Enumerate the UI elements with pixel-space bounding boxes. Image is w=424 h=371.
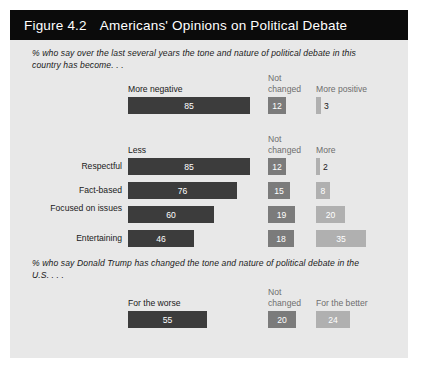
trump-value-for-the-better: 24	[328, 315, 338, 325]
trump-col-for-the-worse: For the worse	[128, 298, 181, 309]
qualities-value-more: 8	[321, 186, 326, 196]
qualities-bar-more: 8	[316, 182, 330, 199]
tone-col-more-negative: More negative	[128, 84, 182, 95]
qualities-row-label: Focused on issues	[28, 203, 122, 213]
figure-title: Americans' Opinions on Political Debate	[100, 18, 348, 33]
qualities-col-less: Less	[128, 145, 146, 156]
tone-value-not-changed: 12	[272, 101, 282, 111]
qualities-bar-more: 2	[316, 158, 320, 175]
qualities-value-more: 35	[336, 234, 346, 244]
qualities-bar-not-changed: 19	[268, 206, 295, 223]
qualities-col-not-changed: Not changed	[268, 134, 310, 155]
qualities-value-not-changed: 19	[277, 210, 287, 220]
trump-col-not-changed: Not changed	[268, 287, 310, 308]
qualities-bar-not-changed: 18	[268, 230, 294, 247]
qualities-bar-more: 35	[316, 230, 366, 247]
tone-value-more-positive: 3	[324, 101, 329, 111]
qualities-bar-not-changed: 15	[268, 182, 290, 199]
qualities-row-label: Entertaining	[28, 233, 122, 243]
trump-bar-for-the-worse: 55	[128, 311, 207, 328]
qualities-value-not-changed: 18	[276, 234, 286, 244]
qualities-bar-less: 46	[128, 230, 194, 247]
trump-value-for-the-worse: 55	[163, 315, 173, 325]
qualities-value-not-changed: 15	[274, 186, 284, 196]
qualities-bar-less: 76	[128, 182, 237, 199]
trump-col-for-the-better: For the better	[316, 298, 368, 309]
qualities-bar-not-changed: 12	[268, 158, 286, 175]
qualities-value-more: 2	[323, 162, 328, 172]
trump-subtitle: % who say Donald Trump has changed the t…	[32, 258, 362, 281]
trump-bar-not-changed: 20	[268, 311, 296, 328]
figure-number: Figure 4.2	[24, 18, 87, 33]
tone-col-not-changed: Not changed	[268, 73, 310, 94]
figure-panel: Figure 4.2 Americans' Opinions on Politi…	[10, 10, 408, 358]
tone-value-more-negative: 85	[184, 101, 194, 111]
figure-body: % who say over the last several years th…	[10, 40, 408, 358]
trump-bar-for-the-better: 24	[316, 311, 350, 328]
tone-bar-more-positive: 3	[316, 97, 321, 114]
qualities-value-less: 60	[166, 210, 176, 220]
qualities-row-label: Respectful	[28, 161, 122, 171]
qualities-value-less: 85	[184, 162, 194, 172]
qualities-value-more: 20	[326, 210, 336, 220]
tone-bar-more-negative: 85	[128, 97, 250, 114]
tone-bar-not-changed: 12	[268, 97, 286, 114]
qualities-bar-more: 20	[316, 206, 345, 223]
qualities-value-less: 46	[156, 234, 166, 244]
tone-col-more-positive: More positive	[316, 84, 367, 95]
qualities-value-less: 76	[178, 186, 188, 196]
qualities-row-label: Fact-based	[28, 185, 122, 195]
tone-subtitle: % who say over the last several years th…	[32, 48, 362, 71]
qualities-bar-less: 60	[128, 206, 214, 223]
qualities-col-more: More	[316, 145, 336, 156]
trump-value-not-changed: 20	[277, 315, 287, 325]
figure-title-bar: Figure 4.2 Americans' Opinions on Politi…	[10, 10, 408, 40]
qualities-value-not-changed: 12	[272, 162, 282, 172]
qualities-bar-less: 85	[128, 158, 250, 175]
